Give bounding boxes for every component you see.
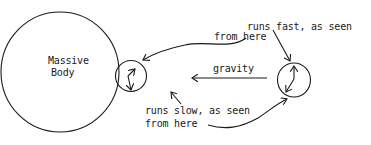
fast-pointer-to-far-clock (273, 30, 290, 61)
massive-body-label-line2: Body (51, 67, 74, 78)
near-clock-icon (116, 61, 147, 92)
slow-pointer-to-near-clock (171, 92, 181, 104)
far-clock-caption-line2: from here (214, 31, 266, 42)
far-clock-icon (278, 63, 311, 97)
near-clock-caption-line2: from here (145, 118, 197, 129)
near-clock-caption-line1: runs slow, as seen (145, 105, 250, 116)
gravity-label: gravity (213, 63, 254, 74)
gravitational-time-dilation-diagram: Massive Body gravity runs fast, as seen … (0, 0, 371, 145)
massive-body-label-line1: Massive (48, 55, 89, 66)
